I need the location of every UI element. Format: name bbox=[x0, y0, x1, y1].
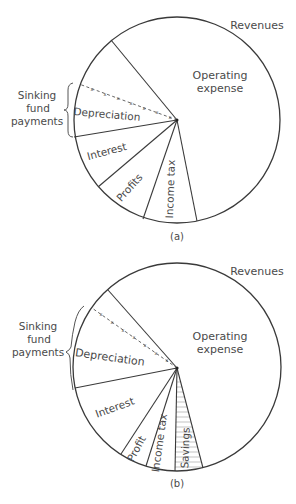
pie-a-operating-label-line1: Operating bbox=[193, 69, 248, 82]
pie-b-center bbox=[175, 366, 178, 369]
svg-text:x: x bbox=[111, 319, 114, 325]
svg-text:x: x bbox=[144, 342, 147, 348]
pie-a-bracket-label-line3: payments bbox=[11, 115, 63, 127]
svg-text:x: x bbox=[122, 327, 125, 333]
pie-a-incometax-label: Income tax bbox=[163, 159, 177, 218]
pie-a-sinking-fund-brace bbox=[64, 83, 73, 137]
svg-text:x: x bbox=[155, 350, 158, 356]
svg-text:x: x bbox=[156, 109, 159, 115]
pie-b-savings-label: Savings bbox=[178, 427, 191, 468]
svg-text:x: x bbox=[166, 357, 169, 363]
pie-b-bracket-label-line3: payments bbox=[12, 346, 64, 358]
pie-a-bracket-label-line1: Sinking bbox=[18, 89, 57, 101]
svg-text:x: x bbox=[169, 114, 172, 120]
svg-text:x: x bbox=[130, 100, 133, 106]
pie-b-bracket-label-line2: fund bbox=[27, 333, 51, 345]
svg-text:x: x bbox=[104, 91, 107, 97]
pie-b-operating-label-line1: Operating bbox=[193, 330, 248, 343]
pie-a-center bbox=[176, 119, 179, 122]
pie-b-operating-label-line2: expense bbox=[197, 343, 244, 356]
svg-text:x: x bbox=[133, 334, 136, 340]
svg-text:x: x bbox=[91, 86, 94, 92]
pie-b-caption: (b) bbox=[170, 478, 184, 489]
pie-a-operating-label-line2: expense bbox=[197, 82, 244, 95]
svg-text:x: x bbox=[100, 311, 103, 317]
pie-a-caption: (a) bbox=[170, 231, 184, 242]
pie-b-revenues-label: Revenues bbox=[230, 265, 284, 278]
pie-chart-b: x x x x x x x Revenues Operating expense… bbox=[12, 263, 284, 489]
svg-text:x: x bbox=[143, 105, 146, 111]
pie-b-bracket-label-line1: Sinking bbox=[19, 320, 58, 332]
pie-a-revenues-label: Revenues bbox=[230, 19, 284, 32]
svg-text:x: x bbox=[117, 95, 120, 101]
revenue-pie-diagrams: x x x x x x x Revenues Operating expense… bbox=[0, 0, 296, 504]
pie-a-bracket-label-line2: fund bbox=[26, 102, 50, 114]
pie-chart-a: x x x x x x x Revenues Operating expense… bbox=[11, 17, 284, 242]
